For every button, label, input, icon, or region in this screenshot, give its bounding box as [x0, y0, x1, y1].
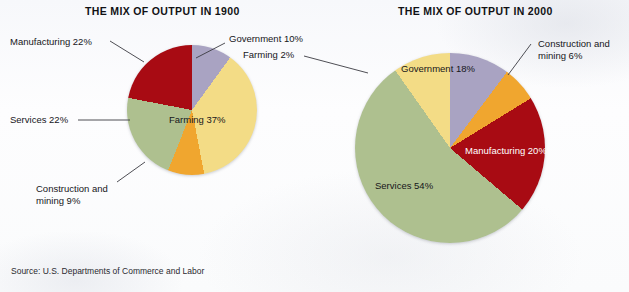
- chart-title-2000: THE MIX OF OUTPUT IN 2000: [398, 5, 553, 17]
- slice-label-farming-2000: Farming 2%: [243, 49, 294, 61]
- pie-chart-1900: [127, 45, 257, 175]
- leader-line-manufacturing-1900: [110, 41, 144, 62]
- slice-label-manufacturing-1900: Manufacturing 22%: [10, 36, 92, 48]
- slice-label-government-2000: Government 18%: [401, 63, 475, 75]
- slice-label-government-1900: Government 10%: [229, 33, 303, 45]
- chart-title-1900: THE MIX OF OUTPUT IN 1900: [85, 5, 240, 17]
- slice-label-farming-1900: Farming 37%: [169, 114, 226, 126]
- slice-label-manufacturing-2000: Manufacturing 20%: [465, 145, 547, 157]
- leader-line-construction-1900: [117, 162, 145, 182]
- slice-label-construction-2000-line2: mining 6%: [538, 50, 624, 62]
- slice-label-services-2000: Services 54%: [375, 180, 433, 192]
- pie-1900-shadow: [127, 45, 257, 175]
- slice-label-construction-1900: Construction and mining 9%: [36, 183, 146, 206]
- slice-label-construction-1900-line1: Construction and: [36, 183, 146, 195]
- slice-label-construction-2000: Construction and mining 6%: [538, 38, 624, 61]
- slice-label-services-1900: Services 22%: [10, 114, 68, 126]
- leader-line-farming-2000: [304, 56, 368, 73]
- slice-label-construction-2000-line1: Construction and: [538, 38, 624, 50]
- chart-page: THE MIX OF OUTPUT IN 1900 THE MIX OF OUT…: [0, 0, 629, 292]
- leader-line-construction-2000: [508, 44, 531, 75]
- slice-label-construction-1900-line2: mining 9%: [36, 195, 146, 207]
- source-note: Source: U.S. Departments of Commerce and…: [11, 266, 204, 276]
